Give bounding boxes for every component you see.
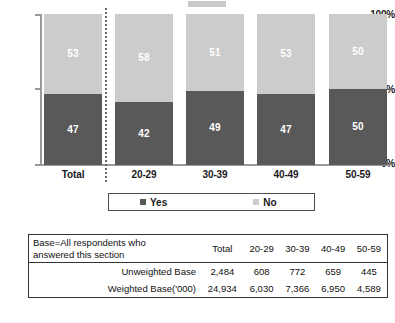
table-cell: 24,934 <box>201 280 244 298</box>
table-cell: 608 <box>244 263 280 281</box>
table-column-header-30-39: 30-39 <box>279 235 315 263</box>
y-axis-tick-50 <box>35 88 41 90</box>
bar-value-label-no: 51 <box>209 48 221 58</box>
bar-group-40-49: 5347 <box>257 14 315 165</box>
base-table: Base=All respondents who answered this s… <box>28 234 388 298</box>
base-description-cell: Base=All respondents who answered this s… <box>29 235 201 263</box>
table-column-header-20-29: 20-29 <box>244 235 280 263</box>
y-axis <box>34 14 42 166</box>
bar-group-20-29: 5842 <box>115 14 173 165</box>
bar-segment-yes[interactable]: 50 <box>329 89 387 165</box>
bar-value-label-no: 58 <box>138 53 150 63</box>
base-description-line-1: Base=All respondents who <box>33 237 201 249</box>
table-cell: 4,589 <box>351 280 388 298</box>
stacked-bar-chart: 100% 50% 0% 53475842514953475050 Total20… <box>0 0 395 188</box>
x-axis-label-total: Total <box>44 169 102 180</box>
y-axis-tick-100 <box>35 14 41 16</box>
table-cell: 6,950 <box>315 280 351 298</box>
table-cell: 659 <box>315 263 351 281</box>
bar-segment-no[interactable]: 50 <box>329 14 387 89</box>
bar-segment-yes[interactable]: 47 <box>44 94 102 165</box>
legend-swatch-yes-icon <box>140 199 146 205</box>
table-row-label-unweighted-base: Unweighted Base <box>29 263 201 281</box>
table-cell: 6,030 <box>244 280 280 298</box>
legend-item-yes[interactable]: Yes <box>140 197 167 208</box>
table-row: Unweighted Base 2,484 608 772 659 445 <box>29 263 388 281</box>
table-column-header-40-49: 40-49 <box>315 235 351 263</box>
bar-value-label-yes: 42 <box>138 129 150 139</box>
bar-segment-yes[interactable]: 49 <box>186 91 244 165</box>
legend-swatch-no-icon <box>253 199 259 205</box>
legend-item-no[interactable]: No <box>253 197 276 208</box>
table-row: Weighted Base('000) 24,934 6,030 7,366 6… <box>29 280 388 298</box>
bar-segment-yes[interactable]: 47 <box>257 94 315 165</box>
bar-segment-yes[interactable]: 42 <box>115 102 173 165</box>
table-cell: 2,484 <box>201 263 244 281</box>
table-cell: 772 <box>279 263 315 281</box>
table-header-row: Base=All respondents who answered this s… <box>29 235 388 263</box>
bar-group-total: 5347 <box>44 14 102 165</box>
y-axis-line <box>40 14 42 166</box>
bar-value-label-no: 53 <box>67 49 79 59</box>
table-cell: 445 <box>351 263 388 281</box>
table-column-header-50-59: 50-59 <box>351 235 388 263</box>
bar-value-label-yes: 50 <box>352 122 364 132</box>
x-axis-label-50-59: 50-59 <box>329 169 387 180</box>
total-group-divider <box>105 8 107 184</box>
chart-legend: Yes No <box>108 193 315 211</box>
x-axis-label-30-39: 30-39 <box>186 169 244 180</box>
base-description-line-2: answered this section <box>33 249 201 261</box>
table-cell: 7,366 <box>279 280 315 298</box>
bar-value-label-no: 53 <box>280 49 292 59</box>
legend-label-no: No <box>263 197 276 208</box>
x-axis-label-40-49: 40-49 <box>257 169 315 180</box>
legend-label-yes: Yes <box>150 197 167 208</box>
bar-value-label-yes: 49 <box>209 123 221 133</box>
bar-segment-no[interactable]: 53 <box>257 14 315 94</box>
table-row-label-weighted-base: Weighted Base('000) <box>29 280 201 298</box>
bar-value-label-no: 50 <box>352 47 364 57</box>
bar-segment-no[interactable]: 51 <box>186 14 244 91</box>
bar-group-30-39: 5149 <box>186 14 244 165</box>
bar-group-50-59: 5050 <box>329 14 387 165</box>
bar-segment-no[interactable]: 53 <box>44 14 102 94</box>
bar-value-label-yes: 47 <box>280 125 292 135</box>
bar-value-label-yes: 47 <box>67 125 79 135</box>
x-axis-label-20-29: 20-29 <box>115 169 173 180</box>
bar-segment-no[interactable]: 58 <box>115 14 173 102</box>
table-column-header-total: Total <box>201 235 244 263</box>
